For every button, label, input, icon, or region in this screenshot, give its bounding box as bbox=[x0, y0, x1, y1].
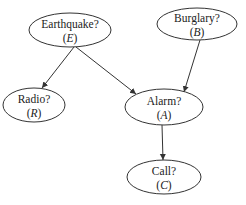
node-label: Earthquake? bbox=[41, 18, 98, 31]
edge-e-to-a-arrow bbox=[76, 47, 136, 94]
edge-b-to-a-arrow bbox=[184, 40, 200, 92]
node-variable: (E) bbox=[63, 32, 78, 45]
diagram-canvas: Earthquake?(E)Burglary?(B)Radio?(R)Alarm… bbox=[0, 0, 246, 205]
edge-e-to-r-arrow bbox=[42, 47, 74, 88]
edge-a-to-c-arrow bbox=[162, 125, 163, 160]
node-alarm: Alarm?(A) bbox=[125, 89, 203, 125]
node-variable: (C) bbox=[156, 179, 172, 192]
node-label: Alarm? bbox=[147, 95, 181, 107]
bayesian-network-diagram: Earthquake?(E)Burglary?(B)Radio?(R)Alarm… bbox=[0, 0, 246, 205]
node-call: Call?(C) bbox=[127, 160, 201, 194]
nodes: Earthquake?(E)Burglary?(B)Radio?(R)Alarm… bbox=[3, 8, 237, 194]
node-label: Burglary? bbox=[174, 12, 220, 25]
node-label: Call? bbox=[152, 165, 176, 177]
node-burglary: Burglary?(B) bbox=[157, 8, 237, 40]
node-earthquake: Earthquake?(E) bbox=[29, 13, 111, 47]
node-variable: (B) bbox=[190, 26, 205, 39]
node-variable: (A) bbox=[157, 109, 172, 122]
node-radio: Radio?(R) bbox=[3, 88, 65, 122]
node-variable: (R) bbox=[27, 107, 42, 120]
node-label: Radio? bbox=[18, 93, 51, 105]
